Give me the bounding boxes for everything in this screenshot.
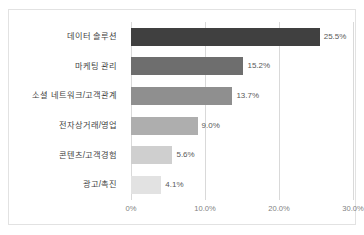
category-label: 마케팅 관리	[75, 58, 117, 76]
x-tick-label: 10.0%	[194, 204, 216, 213]
bar-value-label: 5.6%	[172, 146, 194, 164]
bar-value-label: 25.5%	[320, 28, 347, 46]
plot-area: 25.5%15.2%13.7%9.0%5.6%4.1%	[123, 22, 355, 200]
bar-value-label: 9.0%	[198, 117, 220, 135]
category-label: 광고/촉진	[83, 176, 117, 194]
bar-row: 5.6%	[123, 141, 355, 171]
bar-row: 9.0%	[123, 111, 355, 141]
category-label: 콘텐츠/고객경험	[59, 147, 117, 165]
bar-row: 13.7%	[123, 81, 355, 111]
x-tick-label: 20.0%	[268, 204, 290, 213]
category-label: 데이터 솔루션	[67, 28, 117, 46]
x-tick-label: 30.0%	[342, 204, 364, 213]
chart-frame: 데이터 솔루션마케팅 관리소셜 네트워크/고객관계전자상거래/영업콘텐츠/고객경…	[8, 9, 356, 225]
bar-3[interactable]	[131, 87, 232, 105]
category-label: 소셜 네트워크/고객관계	[32, 87, 117, 105]
bar-row: 25.5%	[123, 22, 355, 52]
value-axis-labels: 0%10.0%20.0%30.0%	[123, 200, 355, 220]
category-axis-labels: 데이터 솔루션마케팅 관리소셜 네트워크/고객관계전자상거래/영업콘텐츠/고객경…	[9, 22, 117, 200]
bar-value-label: 4.1%	[161, 176, 183, 194]
x-tick-label: 0%	[126, 204, 137, 213]
bar-value-label: 15.2%	[243, 57, 270, 75]
category-label: 전자상거래/영업	[59, 117, 117, 135]
bar-value-label: 13.7%	[232, 87, 259, 105]
bar-6[interactable]	[131, 176, 161, 194]
bar-2[interactable]	[131, 57, 243, 75]
bar-1[interactable]	[131, 28, 320, 46]
bar-row: 4.1%	[123, 170, 355, 200]
bar-row: 15.2%	[123, 52, 355, 82]
bar-4[interactable]	[131, 117, 198, 135]
bar-5[interactable]	[131, 146, 172, 164]
